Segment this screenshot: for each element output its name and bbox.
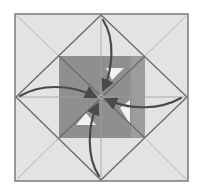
- origami-diagram: [0, 0, 200, 192]
